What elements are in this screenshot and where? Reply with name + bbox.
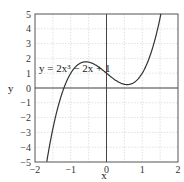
y-tick: −3 (20, 127, 31, 138)
y-tick: 4 (26, 23, 31, 34)
x-tick: 1 (140, 164, 145, 175)
y-tick-labels: 543210−1−2−3−4−5 (20, 9, 31, 168)
zero-axes (35, 14, 178, 162)
y-tick: −1 (20, 97, 31, 108)
equation-label: y = 2x³ − 2x + 1 (39, 62, 110, 74)
y-tick: 2 (26, 53, 31, 64)
y-tick: 5 (26, 9, 31, 20)
y-tick: 3 (26, 38, 31, 49)
x-tick: −2 (30, 164, 41, 175)
x-axis-label: x (101, 169, 107, 181)
y-tick: −2 (20, 112, 31, 123)
y-axis-label: y (8, 82, 14, 94)
x-tick: −1 (65, 164, 76, 175)
y-tick: 1 (26, 68, 31, 79)
x-tick: 2 (176, 164, 181, 175)
cubic-function-plot: 543210−1−2−3−4−5 −2−1012 y = 2x³ − 2x + … (0, 0, 184, 182)
y-tick: 0 (26, 83, 31, 94)
y-tick: −4 (20, 142, 31, 153)
